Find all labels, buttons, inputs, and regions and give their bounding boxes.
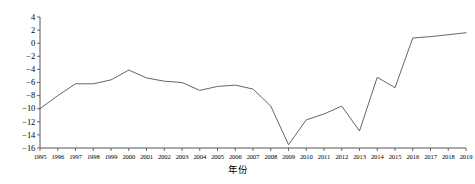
y-tick-label: −14 xyxy=(4,131,35,140)
x-tick-label: 2019 xyxy=(456,154,475,161)
y-tick-label: −6 xyxy=(4,78,35,87)
x-axis-title: 年份 xyxy=(0,164,475,175)
y-tick-label: −2 xyxy=(4,52,35,61)
y-tick-label: 0 xyxy=(4,39,35,48)
axis-spines xyxy=(40,17,466,148)
y-tick-label: −8 xyxy=(4,91,35,100)
y-tick-label: −16 xyxy=(4,144,35,153)
y-tick-label: −10 xyxy=(4,104,35,113)
y-tick-label: −12 xyxy=(4,118,35,127)
y-tick-label: 2 xyxy=(4,26,35,35)
data-series-line xyxy=(40,33,466,145)
y-tick-label: 4 xyxy=(4,13,35,22)
y-tick-label: −4 xyxy=(4,65,35,74)
line-chart: 420−2−4−6−8−10−12−14−16 1995199619971998… xyxy=(0,0,475,184)
